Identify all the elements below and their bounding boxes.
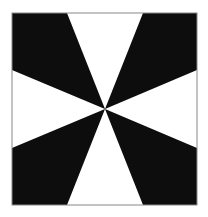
pinwheel-figure [0, 0, 208, 217]
